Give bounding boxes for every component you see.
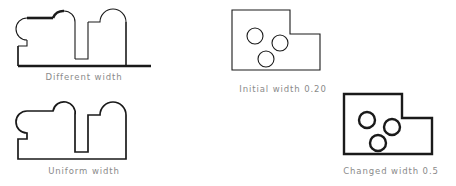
caption-changed-width: Changed width 0.5 xyxy=(330,166,452,176)
caption-different-width: Different width xyxy=(8,72,160,82)
plate-outline xyxy=(232,10,320,70)
outline-left-step xyxy=(18,40,27,46)
bumpy-outline-variable-stroke xyxy=(8,4,160,72)
outline-right-lobe xyxy=(88,9,126,66)
figure-changed-width xyxy=(338,88,450,162)
l-plate-thick-stroke xyxy=(338,88,450,162)
figure-initial-width xyxy=(228,6,340,76)
plate-hole-3 xyxy=(370,135,386,151)
outline-middle-bump-right xyxy=(64,11,75,59)
figure-different-width xyxy=(8,4,160,72)
plate-hole-2 xyxy=(384,119,400,135)
l-plate-thin-stroke xyxy=(228,6,340,76)
outline-notch xyxy=(75,22,88,59)
outline-uniform-path xyxy=(16,102,126,159)
figure-uniform-width xyxy=(8,97,160,165)
plate-hole-1 xyxy=(247,28,263,44)
caption-uniform-width: Uniform width xyxy=(8,166,160,176)
plate-hole-2 xyxy=(272,35,288,51)
plate-hole-3 xyxy=(258,51,274,67)
caption-initial-width: Initial width 0.20 xyxy=(222,84,344,94)
plate-outline xyxy=(344,94,432,154)
plate-hole-1 xyxy=(359,112,375,128)
outline-middle-bump-left xyxy=(53,11,64,18)
bumpy-outline-uniform-stroke xyxy=(8,97,160,165)
outline-left-lobe xyxy=(16,18,53,40)
